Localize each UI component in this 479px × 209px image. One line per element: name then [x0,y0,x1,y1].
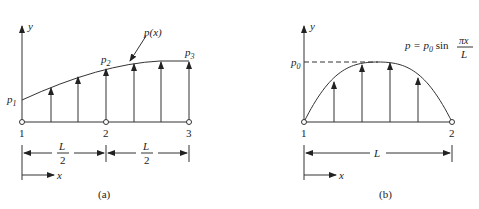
figure-a: y p(x) p1 p2 p3 1 2 3 [6,20,195,201]
dim-a1-den: 2 [60,154,66,166]
load-arrows-b [334,63,418,122]
node-label-2-b: 2 [449,127,455,139]
node-2-a [104,120,109,125]
dim-a2-den: 2 [144,154,150,166]
x-axis-label-b: x [338,169,344,181]
svg-text:L: L [460,48,467,60]
load-label-p2: p2 [100,53,111,68]
load-label-p3: p3 [184,46,195,61]
node-3-a [187,120,192,125]
y-axis-label-b: y [309,20,315,32]
caption-b: (b) [379,188,392,201]
svg-text:p = p0 sin: p = p0 sin [404,39,449,54]
y-axis-label-a: y [27,20,33,32]
curve-pointer-arrow [130,36,146,61]
load-arrows-a [51,62,189,122]
caption-a: (a) [98,188,111,201]
figure-b: y p0 p = p0 sin πx L 1 2 L x [290,20,473,201]
load-label-p1: p1 [6,93,17,108]
node-1-b [302,120,307,125]
node-label-1-a: 1 [19,127,25,139]
dim-a1-num: L [58,140,65,152]
sine-load-curve-b [304,62,452,122]
x-axis-label-a: x [56,169,62,181]
equation-label: p = p0 sin πx L [404,35,473,60]
node-2-b [450,120,455,125]
node-label-1-b: 1 [301,127,307,139]
svg-text:πx: πx [459,35,469,46]
dim-b-L: L [373,147,380,159]
peak-label-p0: p0 [290,56,301,71]
dim-a2-num: L [142,140,149,152]
diagram-canvas: y p(x) p1 p2 p3 1 2 3 [0,0,479,209]
node-label-2-a: 2 [103,127,109,139]
curve-label-px: p(x) [143,26,162,39]
node-1-a [20,120,25,125]
node-label-3-a: 3 [186,127,192,139]
